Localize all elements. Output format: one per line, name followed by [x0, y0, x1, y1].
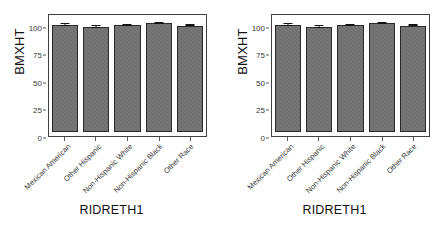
bar-non-hispanic-white[interactable] [114, 25, 140, 132]
error-bar-cap-bottom [154, 23, 163, 24]
x-axis-labels-left: Mexican AmericanOther HispanicNon-Hispan… [48, 142, 207, 198]
bar-group[interactable] [177, 19, 203, 132]
bar-non-hispanic-black[interactable] [146, 23, 172, 132]
x-tick-mark [413, 137, 414, 141]
chart-panel-left: BMXHT 0255075100 Mexican AmericanOther H… [0, 0, 223, 236]
y-tick-mark [43, 55, 46, 56]
x-tick-mark [350, 137, 351, 141]
bar-group[interactable] [275, 19, 301, 132]
bar-group[interactable] [306, 19, 332, 132]
y-tick-mark [266, 27, 269, 28]
y-tick-label: 0 [261, 134, 265, 143]
y-tick-mark [43, 138, 46, 139]
error-bar-cap-bottom [284, 25, 293, 26]
y-tick-label: 75 [256, 51, 265, 60]
bar-group[interactable] [369, 19, 395, 132]
x-axis-title-left: RIDRETH1 [0, 203, 223, 217]
error-bar-cap-bottom [346, 25, 355, 26]
bar-group[interactable] [83, 19, 109, 132]
plot-area-left [48, 14, 207, 137]
y-tick-mark [266, 82, 269, 83]
error-bar-cap-bottom [315, 27, 324, 28]
x-tick-mark [318, 137, 319, 141]
x-tick-mark [95, 137, 96, 141]
error-bar-cap-bottom [408, 25, 417, 26]
bar-non-hispanic-white[interactable] [337, 25, 363, 132]
chart-panel-right: BMXHT 0255075100 Mexican AmericanOther H… [223, 0, 446, 236]
bar-group[interactable] [337, 19, 363, 132]
y-tick-label: 50 [256, 78, 265, 87]
bar-other-race[interactable] [400, 26, 426, 132]
y-tick-mark [43, 110, 46, 111]
bar-group[interactable] [146, 19, 172, 132]
plot-area-right [271, 14, 430, 137]
y-tick-label: 100 [29, 23, 42, 32]
bar-mexican-american[interactable] [52, 25, 78, 132]
x-tick-mark [159, 137, 160, 141]
x-tick-mark [64, 137, 65, 141]
error-bar-cap-bottom [123, 25, 132, 26]
y-axis-ticks-left: 0255075100 [24, 18, 46, 134]
error-bar-cap-bottom [377, 23, 386, 24]
bar-group[interactable] [114, 19, 140, 132]
y-tick-label: 25 [256, 106, 265, 115]
x-tick-mark [287, 137, 288, 141]
y-axis-ticks-right: 0255075100 [247, 18, 269, 134]
x-tick-mark [127, 137, 128, 141]
y-tick-label: 25 [33, 106, 42, 115]
bar-other-hispanic[interactable] [306, 27, 332, 132]
y-tick-label: 50 [33, 78, 42, 87]
y-tick-mark [266, 138, 269, 139]
figure-container: BMXHT 0255075100 Mexican AmericanOther H… [0, 0, 446, 236]
y-tick-mark [43, 27, 46, 28]
bar-series-left [52, 19, 203, 132]
error-bar-cap-bottom [92, 27, 101, 28]
bar-other-race[interactable] [177, 26, 203, 132]
bar-series-right [275, 19, 426, 132]
y-tick-label: 0 [38, 134, 42, 143]
y-tick-mark [43, 82, 46, 83]
x-axis-title-right: RIDRETH1 [223, 203, 446, 217]
error-bar-cap-bottom [185, 25, 194, 26]
bar-mexican-american[interactable] [275, 25, 301, 132]
error-bar-cap-bottom [61, 25, 70, 26]
x-tick-mark [382, 137, 383, 141]
y-tick-mark [266, 110, 269, 111]
y-tick-mark [266, 55, 269, 56]
bar-group[interactable] [52, 19, 78, 132]
x-tick-mark [190, 137, 191, 141]
bar-other-hispanic[interactable] [83, 27, 109, 132]
bar-group[interactable] [400, 19, 426, 132]
bar-non-hispanic-black[interactable] [369, 23, 395, 132]
x-axis-labels-right: Mexican AmericanOther HispanicNon-Hispan… [271, 142, 430, 198]
y-tick-label: 75 [33, 51, 42, 60]
y-tick-label: 100 [252, 23, 265, 32]
